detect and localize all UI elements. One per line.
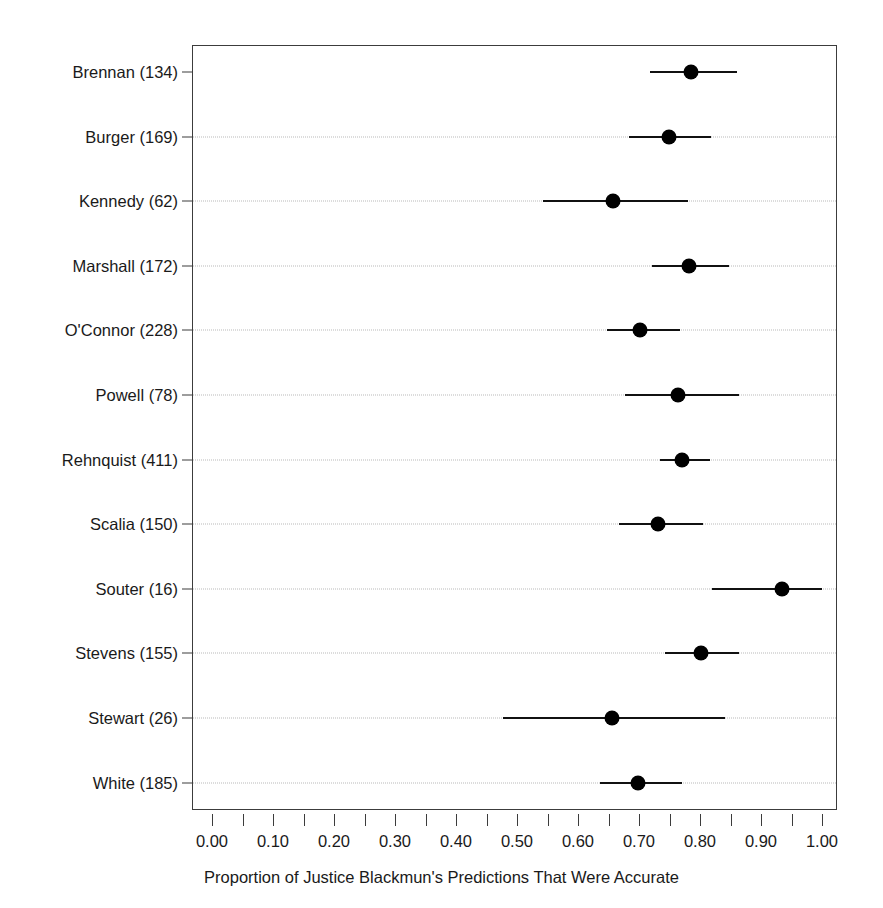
gridline	[193, 330, 836, 331]
x-axis-tick-label: 0.00	[196, 832, 228, 851]
data-point	[605, 194, 620, 209]
x-axis-major-tick	[456, 814, 457, 826]
y-axis-tick	[182, 136, 193, 137]
y-axis-tick-label: Marshall (172)	[0, 256, 178, 275]
x-axis-major-tick	[517, 814, 518, 826]
data-point	[633, 323, 648, 338]
data-point	[774, 581, 789, 596]
y-axis-tick-label: Stevens (155)	[0, 644, 178, 663]
x-axis-minor-tick	[731, 814, 732, 826]
x-axis-minor-tick	[792, 814, 793, 826]
y-axis-tick	[182, 330, 193, 331]
y-axis-tick	[182, 395, 193, 396]
data-point	[630, 775, 645, 790]
x-axis-tick-label: 1.00	[806, 832, 838, 851]
x-axis-tick-label: 0.20	[318, 832, 350, 851]
gridline	[193, 265, 836, 266]
data-point	[683, 65, 698, 80]
gridline	[193, 524, 836, 525]
gridline	[193, 201, 836, 202]
data-point	[605, 711, 620, 726]
gridline	[193, 459, 836, 460]
y-axis-tick	[182, 201, 193, 202]
x-axis-minor-tick	[548, 814, 549, 826]
x-axis-tick-label: 0.40	[440, 832, 472, 851]
y-axis-tick-label: White (185)	[0, 773, 178, 792]
y-axis-tick	[182, 265, 193, 266]
x-axis-title: Proportion of Justice Blackmun's Predict…	[0, 868, 883, 887]
x-axis-major-tick	[578, 814, 579, 826]
y-axis-tick	[182, 588, 193, 589]
y-axis-tick-label: Brennan (134)	[0, 63, 178, 82]
x-axis-major-tick	[761, 814, 762, 826]
confidence-interval-bar	[712, 588, 822, 590]
y-axis-tick	[182, 72, 193, 73]
data-point	[694, 646, 709, 661]
x-axis-tick-label: 0.70	[623, 832, 655, 851]
gridline	[193, 653, 836, 654]
data-point	[671, 388, 686, 403]
y-axis-tick	[182, 524, 193, 525]
x-axis-tick-label: 0.30	[379, 832, 411, 851]
x-axis-tick-label: 0.50	[501, 832, 533, 851]
y-axis-tick-label: Stewart (26)	[0, 709, 178, 728]
gridline	[193, 136, 836, 137]
x-axis-minor-tick	[243, 814, 244, 826]
data-point	[661, 129, 676, 144]
y-axis-tick	[182, 459, 193, 460]
x-axis-minor-tick	[304, 814, 305, 826]
y-axis-tick	[182, 782, 193, 783]
x-axis-major-tick	[822, 814, 823, 826]
y-axis-tick-label: Kennedy (62)	[0, 192, 178, 211]
x-axis-minor-tick	[487, 814, 488, 826]
x-axis-minor-tick	[609, 814, 610, 826]
x-axis-tick-label: 0.10	[257, 832, 289, 851]
x-axis-minor-tick	[426, 814, 427, 826]
x-axis-major-tick	[395, 814, 396, 826]
y-axis-tick-label: O'Connor (228)	[0, 321, 178, 340]
x-axis-major-tick	[639, 814, 640, 826]
x-axis-major-tick	[334, 814, 335, 826]
gridline	[193, 782, 836, 783]
y-axis-tick-label: Burger (169)	[0, 127, 178, 146]
x-axis-major-tick	[273, 814, 274, 826]
x-axis-minor-tick	[365, 814, 366, 826]
y-axis-tick-label: Powell (78)	[0, 386, 178, 405]
chart-figure: Brennan (134)Burger (169)Kennedy (62)Mar…	[0, 0, 883, 908]
x-axis-minor-tick	[670, 814, 671, 826]
x-axis-major-tick	[212, 814, 213, 826]
data-point	[674, 452, 689, 467]
x-axis-tick-label: 0.80	[684, 832, 716, 851]
plot-frame	[192, 45, 837, 810]
y-axis-tick-label: Rehnquist (411)	[0, 450, 178, 469]
y-axis-tick-label: Scalia (150)	[0, 515, 178, 534]
y-axis-tick-label: Souter (16)	[0, 579, 178, 598]
x-axis-tick-label: 0.60	[562, 832, 594, 851]
data-point	[682, 258, 697, 273]
y-axis-tick	[182, 718, 193, 719]
x-axis-major-tick	[700, 814, 701, 826]
data-point	[650, 517, 665, 532]
x-axis-tick-label: 0.90	[745, 832, 777, 851]
y-axis-tick	[182, 653, 193, 654]
gridline	[193, 395, 836, 396]
